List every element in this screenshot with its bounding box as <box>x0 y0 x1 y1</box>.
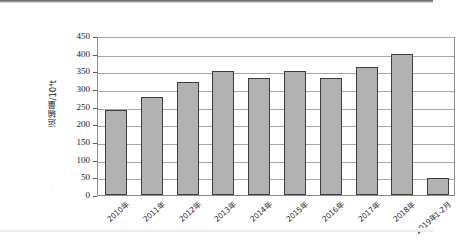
y-axis-tick-mark <box>93 196 97 197</box>
x-axis-tick-label: 2016年 <box>319 199 345 224</box>
y-axis-tick-label: 0 <box>64 190 90 200</box>
bar <box>320 78 342 195</box>
bar <box>391 54 413 195</box>
bar <box>212 71 234 195</box>
y-axis-tick-label: 400 <box>64 49 90 59</box>
scan-artifact-top-band <box>0 0 433 3</box>
y-axis-tick-label: 300 <box>64 84 90 94</box>
x-axis-tick-label: 2010年 <box>104 199 130 224</box>
bar <box>284 71 306 195</box>
y-axis-tick-label: 200 <box>64 119 90 129</box>
bar <box>356 67 378 195</box>
bar <box>177 82 199 195</box>
bar-chart-figure: 运输量/10⁴t 050100150200250300350400450 201… <box>40 16 459 240</box>
y-axis-tick-label: 50 <box>64 172 90 182</box>
x-axis-tick-label: 2018年 <box>390 199 416 224</box>
bar <box>105 110 127 196</box>
y-axis-tick-label: 250 <box>64 102 90 112</box>
x-axis-tick-label: 2013年 <box>211 199 237 224</box>
gridline <box>98 37 454 38</box>
x-axis-tick-label: 2011年 <box>140 199 166 224</box>
scan-artifact-bottom-band <box>0 228 433 232</box>
y-axis-tick-label: 150 <box>64 137 90 147</box>
bar <box>248 78 270 195</box>
y-axis-title: 运输量/10⁴t <box>49 80 63 127</box>
x-axis-tick-label: 2012年 <box>176 199 202 224</box>
y-axis-tick-label: 350 <box>64 66 90 76</box>
bar <box>427 178 449 195</box>
x-axis-tick-label: 2015年 <box>283 199 309 224</box>
x-axis-tick-label: 2017年 <box>355 199 381 224</box>
y-axis-tick-label: 100 <box>64 155 90 165</box>
y-axis-tick-label: 450 <box>64 31 90 41</box>
bar <box>141 97 163 195</box>
x-axis-tick-label: 2014年 <box>247 199 273 224</box>
plot-area <box>97 37 455 196</box>
